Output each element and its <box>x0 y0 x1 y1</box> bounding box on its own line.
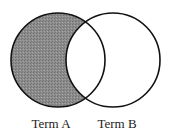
set-a-label: Term A <box>31 116 71 131</box>
region-a-only <box>0 0 170 135</box>
venn-diagram: Term A Term B <box>0 0 170 135</box>
set-b-label: Term B <box>97 116 136 131</box>
